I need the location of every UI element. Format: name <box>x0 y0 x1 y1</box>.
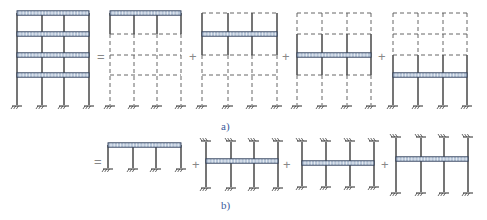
fixed-support-icon <box>200 188 211 191</box>
fixed-support-icon <box>462 193 473 196</box>
subframe-floor-2 <box>296 138 379 190</box>
beam-body <box>206 159 278 163</box>
fixed-support-icon <box>175 106 186 109</box>
fixed-support-icon <box>222 106 233 109</box>
distributed-load-beam <box>393 73 467 77</box>
case-top-floor <box>104 11 186 109</box>
beam-body <box>17 32 89 36</box>
fixed-support-icon <box>248 138 259 141</box>
fixed-support-icon <box>412 106 423 109</box>
fixed-support-icon <box>462 134 473 137</box>
fixed-support-icon <box>127 169 138 172</box>
fixed-support-icon <box>271 106 282 109</box>
fixed-support-icon <box>387 106 398 109</box>
fixed-support-icon <box>128 106 139 109</box>
fixed-support-icon <box>341 106 352 109</box>
beam-body <box>17 11 89 15</box>
fixed-support-icon <box>36 106 47 109</box>
fixed-support-icon <box>390 193 401 196</box>
plus-sign: + <box>282 50 290 63</box>
fixed-support-icon <box>320 187 331 190</box>
fixed-support-icon <box>11 106 22 109</box>
fixed-support-icon <box>296 187 307 190</box>
fixed-support-icon <box>316 106 327 109</box>
case-floor-1 <box>387 13 472 109</box>
fixed-support-icon <box>461 106 472 109</box>
fixed-support-icon <box>390 134 401 137</box>
plus-sign: + <box>378 50 386 63</box>
fixed-support-icon <box>344 138 355 141</box>
label-b: b) <box>221 199 230 211</box>
distributed-load-beam <box>110 11 181 15</box>
distributed-load-beam <box>302 161 374 165</box>
beam-body <box>17 73 89 77</box>
fixed-support-icon <box>102 169 113 172</box>
fixed-support-icon <box>246 106 257 109</box>
fixed-support-icon <box>320 138 331 141</box>
fixed-support-icon <box>368 187 379 190</box>
fixed-support-icon <box>344 187 355 190</box>
fixed-support-icon <box>296 138 307 141</box>
subframe-floor-1 <box>390 134 473 196</box>
subframe-top <box>102 143 186 172</box>
distributed-load-beam <box>108 143 181 147</box>
label-a: a) <box>221 120 230 132</box>
fixed-support-icon <box>415 134 426 137</box>
distributed-load-beam <box>17 32 89 36</box>
beam-body <box>396 157 468 161</box>
plus-sign: + <box>283 158 291 171</box>
distributed-load-beam <box>17 73 89 77</box>
fixed-support-icon <box>175 169 186 172</box>
fixed-support-icon <box>225 188 236 191</box>
case-floor-3 <box>196 13 282 109</box>
fixed-support-icon <box>437 106 448 109</box>
fixed-support-icon <box>196 106 207 109</box>
fixed-support-icon <box>83 106 94 109</box>
structural-frame-diagram <box>0 0 487 220</box>
beam-body <box>17 53 89 57</box>
fixed-support-icon <box>272 138 283 141</box>
fixed-support-icon <box>368 138 379 141</box>
plus-sign: + <box>381 158 389 171</box>
fixed-support-icon <box>58 106 69 109</box>
fixed-support-icon <box>438 193 449 196</box>
fixed-support-icon <box>365 106 376 109</box>
fixed-support-icon <box>291 106 302 109</box>
fixed-support-icon <box>225 138 236 141</box>
plus-sign: + <box>192 158 200 171</box>
beam-body <box>302 161 374 165</box>
fixed-support-icon <box>104 106 115 109</box>
fixed-support-icon <box>150 169 161 172</box>
equals-sign: = <box>97 50 105 63</box>
fixed-support-icon <box>151 106 162 109</box>
beam-body <box>108 143 181 147</box>
distributed-load-beam <box>297 53 371 57</box>
original-frame <box>11 11 94 109</box>
fixed-support-icon <box>200 138 211 141</box>
fixed-support-icon <box>438 134 449 137</box>
distributed-load-beam <box>206 159 278 163</box>
beam-body <box>393 73 467 77</box>
distributed-load-beam <box>396 157 468 161</box>
equals-sign: = <box>94 155 102 168</box>
distributed-load-beam <box>17 53 89 57</box>
fixed-support-icon <box>272 188 283 191</box>
distributed-load-beam <box>202 32 277 36</box>
fixed-support-icon <box>415 193 426 196</box>
plus-sign: + <box>189 50 197 63</box>
subframe-floor-3 <box>200 138 283 191</box>
fixed-support-icon <box>248 188 259 191</box>
beam-body <box>297 53 371 57</box>
distributed-load-beam <box>17 11 89 15</box>
case-floor-2 <box>291 13 376 109</box>
